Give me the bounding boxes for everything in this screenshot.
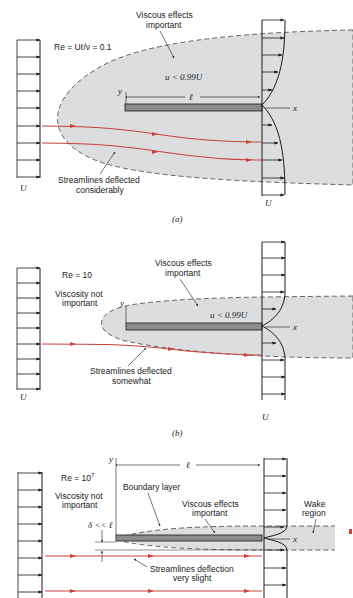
streamline-label: Streamlines deflected [90, 366, 172, 376]
upstream-velocity-label: U [20, 183, 27, 193]
delta-label: δ << ℓ [88, 520, 113, 530]
downstream-velocity-label: U [262, 412, 269, 422]
streamline-label-2: very slight [173, 573, 212, 583]
velocity-condition-label: u < 0.99U [165, 72, 203, 82]
panel-b: U y x Re = 10 Viscosity not important Vi… [17, 242, 353, 438]
panel-c: y ℓ x δ << ℓ [18, 454, 352, 598]
y-axis-label: y [117, 86, 122, 96]
viscous-effects-label-2: important [192, 508, 228, 518]
viscosity-note-2: important [62, 298, 98, 308]
upstream-velocity-profile [18, 472, 42, 598]
viscous-effects-label: Viscous effects [155, 258, 212, 268]
flat-plate [126, 323, 262, 330]
downstream-velocity-label: U [265, 198, 272, 208]
y-axis-label: y [119, 298, 124, 308]
velocity-condition-label: u < 0.99U [210, 310, 248, 320]
viscosity-note-2: important [62, 500, 98, 510]
reynolds-base: Re = 10 [61, 473, 91, 483]
streamline-label-2: somewhat [112, 376, 151, 386]
upstream-velocity-profile [17, 40, 40, 178]
length-label: ℓ [186, 460, 190, 470]
reynolds-exponent: 7 [91, 472, 95, 478]
length-label: ℓ [189, 92, 193, 102]
upstream-velocity-profile [17, 268, 40, 390]
x-axis-label: x [292, 103, 297, 113]
boundary-layer-label: Boundary layer [123, 482, 180, 492]
upstream-velocity-label: U [20, 392, 27, 402]
panel-caption: (a) [172, 214, 183, 224]
wake-label-2: region [302, 508, 326, 518]
reynolds-number: Re = 107 [61, 472, 95, 483]
y-axis-label: y [108, 454, 113, 464]
x-axis-label: x [292, 534, 297, 544]
x-axis-label: x [292, 322, 297, 332]
edge-mark [349, 529, 352, 534]
viscous-effects-label-2: important [146, 20, 182, 30]
flat-plate [116, 535, 262, 541]
viscous-effects-label-2: important [165, 268, 201, 278]
streamline-label: Streamlines deflected [58, 175, 140, 185]
reynolds-number: Re = Uℓ/ν = 0.1 [54, 42, 112, 52]
flat-plate [125, 104, 262, 111]
flat-plate-flow-diagram: U ℓ y x U [0, 0, 353, 598]
viscous-effects-label: Viscous effects [136, 10, 193, 20]
streamline-label-2: considerably [76, 185, 124, 195]
reynolds-number: Re = 10 [62, 270, 92, 280]
panel-a: U ℓ y x U [17, 10, 353, 224]
panel-caption: (b) [172, 428, 183, 438]
